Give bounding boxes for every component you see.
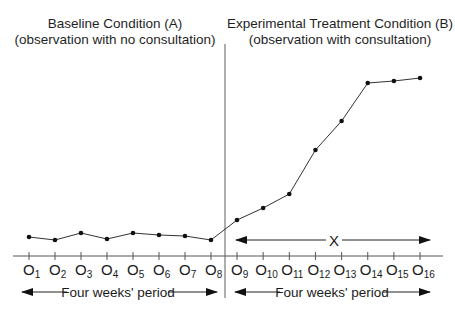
observation-label: O2 (49, 261, 67, 280)
observation-label: O3 (75, 261, 93, 280)
data-point (105, 237, 110, 242)
observation-label: O5 (127, 261, 145, 280)
time-series-chart: O1O2O3O4O5O6O7O8O9O10O11O12O13O14O15O16 … (0, 0, 455, 316)
data-point (235, 218, 240, 223)
data-point (131, 231, 136, 236)
data-point (418, 76, 423, 81)
observation-label: O14 (360, 261, 383, 280)
observation-label: O6 (153, 261, 171, 280)
data-point (287, 192, 292, 197)
data-point (313, 148, 318, 153)
observation-label: O9 (231, 261, 249, 280)
data-point (183, 234, 188, 239)
data-point (392, 79, 397, 84)
treatment-span-label: X (329, 232, 339, 249)
observation-label: O13 (334, 261, 357, 280)
observation-label: O8 (205, 261, 223, 280)
data-point (53, 238, 58, 243)
data-point (79, 231, 84, 236)
data-point (339, 119, 344, 124)
observation-label: O10 (255, 261, 278, 280)
observation-label: O12 (307, 261, 330, 280)
observation-label: O16 (412, 261, 435, 280)
data-point (27, 235, 32, 240)
observation-labels: O1O2O3O4O5O6O7O8O9O10O11O12O13O14O15O16 (23, 261, 435, 280)
left-period-label: Four weeks' period (61, 285, 175, 300)
observation-label: O15 (386, 261, 409, 280)
data-point (365, 81, 370, 86)
data-point (157, 233, 162, 238)
right-period-arrow: Four weeks' period (235, 285, 430, 300)
data-point (261, 206, 266, 211)
observation-label: O4 (101, 261, 119, 280)
data-point (209, 238, 214, 243)
observation-label: O1 (23, 261, 41, 280)
right-period-label: Four weeks' period (275, 285, 389, 300)
treatment-span-arrow: X (236, 232, 430, 249)
observation-label: O7 (179, 261, 197, 280)
observation-label: O11 (281, 261, 303, 280)
left-period-arrow: Four weeks' period (22, 285, 217, 300)
